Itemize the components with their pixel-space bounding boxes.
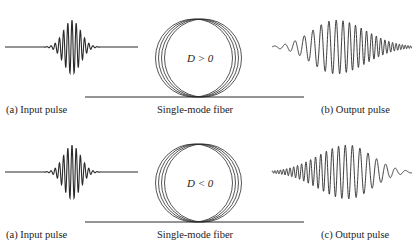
dispersion-label-positive: D > 0: [187, 52, 213, 64]
input-pulse-label-top: (a) Input pulse: [6, 104, 67, 115]
fiber-label-top: Single-mode fiber: [157, 104, 233, 115]
diagram-canvas: [0, 0, 419, 248]
input-pulse-label-bottom: (a) Input pulse: [6, 229, 67, 240]
output-pulse-waveform: [272, 20, 412, 74]
fiber-label-bottom: Single-mode fiber: [157, 229, 233, 240]
output-pulse-label-bottom: (c) Output pulse: [321, 229, 389, 240]
dispersion-label-negative: D < 0: [187, 177, 213, 189]
input-pulse-waveform: [5, 20, 138, 73]
input-pulse-waveform: [5, 145, 138, 198]
output-pulse-label-top: (b) Output pulse: [321, 104, 390, 115]
output-pulse-waveform: [272, 145, 412, 199]
